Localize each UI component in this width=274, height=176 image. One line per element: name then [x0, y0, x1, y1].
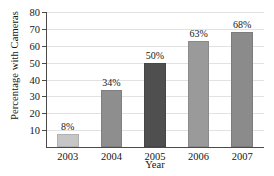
- bar-group[interactable]: 68%2007: [231, 12, 253, 147]
- bar[interactable]: [101, 90, 123, 147]
- y-tick-label: 60: [30, 40, 41, 51]
- y-axis-title: Percentage with Cameras: [9, 0, 20, 136]
- y-tick-label: 40: [30, 74, 41, 85]
- bar[interactable]: [231, 32, 253, 147]
- bar[interactable]: [57, 134, 79, 148]
- bar-value-label: 8%: [61, 121, 74, 132]
- bar-value-label: 34%: [102, 77, 120, 88]
- y-tick-label: 80: [30, 7, 41, 18]
- y-tick-label: 20: [30, 108, 41, 119]
- bar[interactable]: [144, 63, 166, 147]
- bar-value-label: 68%: [233, 19, 251, 30]
- bar-group[interactable]: 63%2006: [188, 12, 210, 147]
- bar-group[interactable]: 8%2003: [57, 12, 79, 147]
- bar-chart-figure: Percentage with Cameras 1020304050607080…: [0, 0, 274, 176]
- y-tick-label: 10: [30, 125, 41, 136]
- plot-area: 1020304050607080 8%200334%200450%200563%…: [46, 12, 264, 147]
- y-tick-label: 30: [30, 91, 41, 102]
- x-axis-line: [46, 147, 264, 148]
- y-axis-line: [46, 12, 47, 147]
- bar-group[interactable]: 50%2005: [144, 12, 166, 147]
- bar-value-label: 50%: [146, 50, 164, 61]
- bar[interactable]: [188, 41, 210, 147]
- x-axis-title: Year: [46, 159, 264, 170]
- bar-value-label: 63%: [189, 28, 207, 39]
- y-tick-label: 50: [30, 57, 41, 68]
- bar-group[interactable]: 34%2004: [101, 12, 123, 147]
- y-tick-label: 70: [30, 23, 41, 34]
